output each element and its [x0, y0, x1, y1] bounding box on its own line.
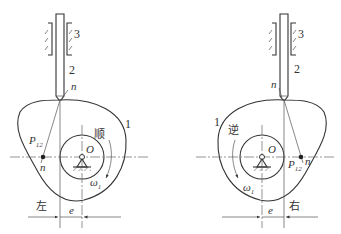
right-label-guide: 3 — [298, 27, 304, 41]
right-follower-rod — [280, 14, 288, 100]
right-normal-line — [284, 100, 303, 163]
left-label-p12: P12 — [28, 134, 43, 149]
right-guide-frame — [269, 23, 296, 55]
left-label-center: O — [86, 143, 94, 155]
left-label-offset: e — [69, 204, 74, 216]
left-label-normal-bottom: n — [40, 161, 46, 173]
right-label-center: O — [268, 143, 276, 155]
right-label-follower: 2 — [294, 62, 300, 76]
right-label-normal-bottom: n — [305, 155, 311, 167]
left-instant-center-point — [41, 155, 46, 160]
left-label-side: 左 — [36, 200, 47, 213]
left-label-follower: 2 — [69, 63, 75, 77]
right-label-rotation-direction: 逆 — [228, 123, 239, 137]
right-label-offset: e — [268, 204, 273, 216]
left-label-cam: 1 — [125, 117, 131, 131]
left-label-normal-top: n — [71, 80, 77, 92]
right-instant-center-point — [299, 155, 304, 160]
left-normal-line — [41, 100, 60, 163]
left-cam-diagram: 3 2 n 1 顺 O P12 n ω1 左 e — [10, 14, 148, 228]
right-label-side: 右 — [289, 199, 300, 213]
left-label-omega: ω1 — [90, 176, 101, 191]
right-rotation-arrow — [233, 140, 238, 178]
right-label-cam: 1 — [214, 115, 220, 129]
right-label-p12: P12 — [287, 158, 302, 173]
left-rotation-arrow — [106, 140, 111, 178]
right-cam-diagram: 3 2 n 1 逆 O P12 n ω1 右 e — [196, 14, 334, 228]
left-guide-frame — [45, 23, 72, 55]
cam-mechanism-figure: 3 2 n 1 顺 O P12 n ω1 左 e — [0, 0, 341, 234]
right-label-normal-top: n — [271, 78, 277, 90]
left-label-guide: 3 — [74, 27, 80, 41]
left-label-rotation-direction: 顺 — [94, 128, 105, 141]
left-follower-rod — [56, 14, 64, 100]
left-cam-profile — [18, 100, 126, 201]
